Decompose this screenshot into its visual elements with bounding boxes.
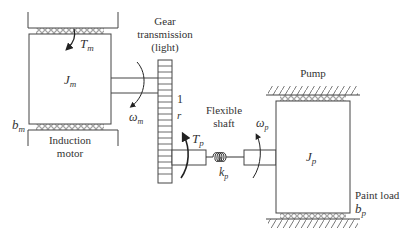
pump-damping-label: bp <box>355 201 367 218</box>
gear-title-line3: (light) <box>151 41 179 54</box>
pump-bottom-ground-hatch <box>268 219 358 228</box>
shaft-title-line1: Flexible <box>206 104 242 116</box>
motor-top-bearing <box>36 28 104 34</box>
pump-speed-label: ωp <box>256 116 268 132</box>
gear-transmission <box>158 60 172 183</box>
shaft-title-line2: shaft <box>213 117 234 129</box>
motor-top-frame <box>28 12 118 28</box>
pump-top-ground-hatch <box>268 86 358 95</box>
shaft-torque-label: Tp <box>192 131 204 148</box>
motor-title-line2: motor <box>57 147 84 159</box>
shaft-left-block <box>172 150 206 165</box>
pump-load-label: Paint load <box>355 189 400 201</box>
gear-title-line2: transmission <box>137 28 193 40</box>
gear-title-line1: Gear <box>154 15 176 27</box>
motor-shaft <box>111 62 158 106</box>
pump-title: Pump <box>300 67 326 79</box>
motor-title-line1: Induction <box>49 134 92 146</box>
motor-speed-arrow-icon <box>132 62 144 106</box>
motor-speed-label: ωm <box>129 110 143 126</box>
pump-top-bearing <box>280 95 346 101</box>
gear-ratio-bottom: r <box>177 109 182 121</box>
motor-bottom-bearing <box>36 124 104 130</box>
shaft-stiffness-label: kp <box>219 165 228 181</box>
spring-icon <box>206 153 244 162</box>
gear-ratio-top: 1 <box>177 92 183 106</box>
pump-bottom-bearing <box>280 213 346 219</box>
drivetrain-diagram: Tm Jm bm ωm Induction motor Gear transmi… <box>0 0 410 243</box>
motor-damping-label: bm <box>12 117 26 134</box>
